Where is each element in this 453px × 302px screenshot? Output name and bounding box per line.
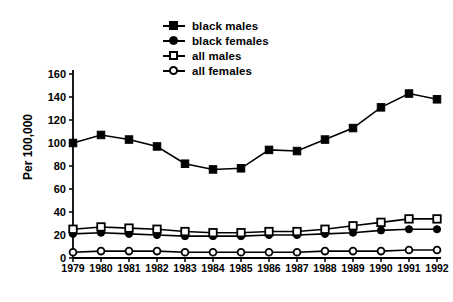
- data-point: [181, 160, 189, 168]
- data-point: [433, 215, 441, 223]
- data-point: [433, 96, 441, 104]
- data-point: [378, 248, 385, 255]
- data-point: [406, 247, 413, 254]
- data-point: [405, 226, 412, 233]
- data-point: [322, 248, 329, 255]
- data-point: [377, 219, 385, 227]
- data-point: [125, 136, 133, 144]
- data-point: [153, 226, 161, 234]
- data-point: [237, 229, 245, 237]
- data-point: [69, 226, 77, 234]
- data-point: [70, 249, 77, 256]
- data-point: [265, 228, 273, 236]
- data-point: [153, 143, 161, 151]
- data-point: [350, 248, 357, 255]
- data-point: [209, 166, 217, 174]
- data-point: [349, 124, 357, 132]
- data-point: [265, 146, 273, 154]
- data-point: [377, 227, 384, 234]
- data-series-layer: [69, 90, 441, 256]
- data-point: [321, 136, 329, 144]
- data-point: [97, 223, 105, 231]
- data-point: [98, 248, 105, 255]
- chart-figure: black males black females all males all …: [0, 0, 453, 302]
- data-point: [349, 222, 357, 230]
- data-point: [154, 248, 161, 255]
- data-point: [405, 90, 413, 98]
- data-point: [433, 226, 440, 233]
- data-point: [126, 248, 133, 255]
- plot-area: [0, 0, 453, 302]
- data-point: [293, 147, 301, 155]
- data-point: [377, 104, 385, 112]
- data-point: [237, 165, 245, 173]
- series-black-males: [69, 90, 441, 173]
- data-point: [434, 247, 441, 254]
- data-point: [405, 215, 413, 223]
- data-point: [294, 249, 301, 256]
- data-point: [209, 229, 217, 237]
- data-point: [125, 224, 133, 232]
- data-point: [97, 131, 105, 139]
- data-point: [182, 249, 189, 256]
- data-point: [210, 249, 217, 256]
- data-point: [321, 226, 329, 234]
- data-point: [293, 228, 301, 236]
- series-all-females: [70, 247, 441, 256]
- data-point: [266, 249, 273, 256]
- data-point: [238, 249, 245, 256]
- data-point: [181, 228, 189, 236]
- data-point: [69, 139, 77, 147]
